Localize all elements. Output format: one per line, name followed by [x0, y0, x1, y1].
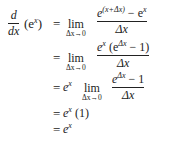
- func: (e: [24, 16, 34, 31]
- equals-2: =: [53, 50, 60, 66]
- numerator: e(x+Δx) − ex: [97, 6, 147, 21]
- fraction-1: e(x+Δx) − ex Δx: [97, 6, 147, 37]
- r: − e: [125, 6, 143, 20]
- lim-sub: Δx→0: [66, 30, 86, 38]
- denominator: dx: [8, 24, 19, 39]
- ex-prefix: ex: [63, 80, 72, 95]
- r: − 1): [126, 40, 149, 54]
- line-5-expr: ex: [63, 122, 72, 137]
- limit-1: lim Δx→0: [66, 18, 86, 38]
- denominator: Δx: [122, 88, 134, 103]
- line-4-expr: ex (1): [63, 106, 89, 121]
- equals-4: =: [53, 106, 60, 122]
- limit-2: lim Δx→0: [66, 52, 86, 72]
- denominator: Δx: [116, 22, 128, 37]
- equals-1: =: [53, 16, 60, 32]
- denominator: Δx: [117, 56, 129, 71]
- s: Δx: [117, 71, 125, 80]
- lim-sub: Δx→0: [82, 94, 102, 102]
- equals-3: =: [53, 80, 60, 96]
- fraction-2: ex (eΔx − 1) Δx: [97, 40, 149, 71]
- d-dx-fraction: d dx: [8, 8, 19, 39]
- rs: x: [143, 5, 147, 14]
- m: (e: [106, 40, 118, 54]
- numerator: ex (eΔx − 1): [97, 40, 149, 55]
- r: (1): [72, 106, 89, 120]
- equals-5: =: [53, 122, 60, 138]
- s: (x+Δx): [102, 5, 125, 14]
- numerator: d: [11, 8, 17, 23]
- r: − 1: [126, 72, 145, 86]
- s: x: [68, 79, 72, 88]
- numerator: eΔx − 1: [112, 72, 144, 87]
- close: ): [38, 16, 42, 31]
- fraction-3: eΔx − 1 Δx: [112, 72, 144, 103]
- limit-3: lim Δx→0: [82, 82, 102, 102]
- s: x: [68, 121, 72, 130]
- lhs-function: (ex): [24, 16, 42, 32]
- lim-sub: Δx→0: [66, 64, 86, 72]
